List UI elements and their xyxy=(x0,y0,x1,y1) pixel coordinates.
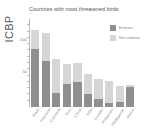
y-tick-label: 100 xyxy=(20,37,27,42)
bar-segment-endemic xyxy=(31,49,39,107)
x-axis-label: Mexico xyxy=(126,108,136,120)
x-axis-label: Brazil xyxy=(32,108,40,118)
x-axis-label: India xyxy=(86,108,94,117)
y-tick xyxy=(27,62,30,63)
y-tick xyxy=(27,81,30,82)
x-axis-label: China xyxy=(74,108,83,118)
y-tick xyxy=(27,24,30,25)
y-tick xyxy=(27,37,30,38)
bar-segment-endemic xyxy=(126,87,134,107)
y-tick xyxy=(27,49,30,50)
bar[interactable] xyxy=(126,85,134,107)
legend-item[interactable]: Non-endemic xyxy=(110,35,140,41)
bar[interactable] xyxy=(94,79,102,107)
bar-segment-endemic xyxy=(42,61,50,107)
y-tick xyxy=(27,93,30,94)
x-axis-label: Peru xyxy=(64,108,72,117)
x-axis-labels: BrazilIndonesiaColombiaPeruChinaIndiaEcu… xyxy=(31,108,147,135)
bar-segment-nonendemic xyxy=(84,74,92,94)
y-tick xyxy=(27,43,30,44)
bar[interactable] xyxy=(63,64,71,107)
y-tick xyxy=(27,100,30,101)
y-tick xyxy=(27,68,30,69)
bar-segment-endemic xyxy=(73,82,81,107)
bar-segment-nonendemic xyxy=(105,81,113,104)
bar[interactable] xyxy=(105,81,113,107)
y-tick xyxy=(27,56,30,57)
y-tick-label: 50 xyxy=(23,69,27,74)
legend-label: Endemic xyxy=(119,26,133,30)
y-tick xyxy=(27,87,30,88)
bar-segment-nonendemic xyxy=(63,64,71,85)
bar[interactable] xyxy=(116,86,124,107)
bar-segment-endemic xyxy=(116,102,124,107)
bar[interactable] xyxy=(52,59,60,107)
chart-legend: EndemicNon-endemic xyxy=(110,25,140,45)
endemic-swatch xyxy=(110,25,116,31)
bar-segment-nonendemic xyxy=(94,79,102,100)
y-tick xyxy=(27,31,30,32)
bar-segment-endemic xyxy=(63,84,71,107)
bar-segment-endemic xyxy=(94,99,102,107)
bar[interactable] xyxy=(84,74,92,107)
bar-segment-endemic xyxy=(105,103,113,107)
bar-segment-endemic xyxy=(84,94,92,107)
nonendemic-swatch xyxy=(110,35,116,41)
bar-segment-nonendemic xyxy=(31,30,39,49)
bar-segment-nonendemic xyxy=(73,63,81,82)
bar[interactable] xyxy=(42,33,50,107)
y-tick xyxy=(27,75,30,76)
bar[interactable] xyxy=(31,30,39,107)
bar-segment-nonendemic xyxy=(116,86,124,102)
bar-segment-nonendemic xyxy=(42,33,50,61)
legend-label: Non-endemic xyxy=(119,36,140,40)
bar-segment-nonendemic xyxy=(52,59,60,92)
bar[interactable] xyxy=(73,63,81,107)
y-axis-title: ICBP xyxy=(3,3,17,55)
chart-container: ICBP Countries with most threatened bird… xyxy=(0,0,162,135)
legend-item[interactable]: Endemic xyxy=(110,25,140,31)
bar-segment-endemic xyxy=(52,93,60,107)
chart-title: Countries with most threatened birds xyxy=(29,6,159,12)
